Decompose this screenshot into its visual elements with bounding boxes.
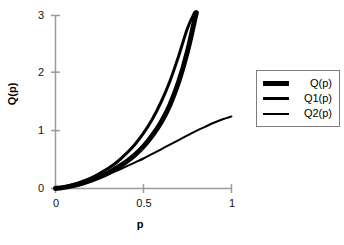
y-tick-label-0: 0 [22, 183, 44, 194]
y-axis-title: Q(p) [6, 69, 18, 119]
series-line-q [56, 13, 197, 189]
chart-legend: Q(p) Q1(p) Q2(p) [256, 70, 340, 127]
x-axis-title: p [100, 218, 180, 230]
legend-label-q: Q(p) [291, 78, 335, 89]
thin-line-swatch [261, 113, 291, 115]
series-line-q2 [56, 116, 232, 188]
y-tick-label-2: 2 [22, 67, 44, 78]
thick-line-swatch [261, 81, 291, 86]
x-tick-label-0: 0 [41, 198, 71, 209]
y-tick-label-1: 1 [22, 125, 44, 136]
axis-lines [55, 15, 232, 189]
legend-item-q: Q(p) [261, 76, 335, 91]
plot-area: 3 2 1 0 0 0.5 1 Q(p) p [0, 0, 250, 245]
legend-label-q2: Q2(p) [291, 108, 335, 119]
plot-canvas [0, 0, 250, 245]
legend-item-q1: Q1(p) [261, 91, 335, 106]
x-tick-label-1: 1 [217, 198, 247, 209]
legend-label-q1: Q1(p) [291, 93, 335, 104]
data-series-group [56, 13, 232, 189]
medium-line-swatch [261, 97, 291, 100]
x-tick-label-05: 0.5 [129, 198, 159, 209]
y-tick-label-3: 3 [22, 10, 44, 21]
chart-figure: 3 2 1 0 0 0.5 1 Q(p) p Q(p) Q1(p) [0, 0, 344, 245]
legend-item-q2: Q2(p) [261, 106, 335, 121]
